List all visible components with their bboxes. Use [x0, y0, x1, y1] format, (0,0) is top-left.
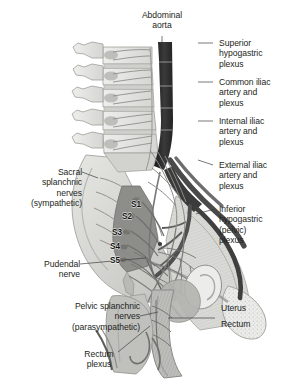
leader-external-iliac [198, 160, 213, 165]
label-rectum: Rectum [221, 319, 287, 329]
label-pelvic-splanchnic-nerves: Pelvic splanchnic nerves (parasympatheti… [2, 301, 140, 332]
label-inferior-hypogastric-plexus: Inferior hypogastric (pelvic) plexus [219, 204, 289, 246]
label-sacral-splanchnic-nerves: Sacral splanchnic nerves (sympathetic) [2, 167, 82, 209]
label-uterus: Uterus [221, 303, 287, 313]
label-external-iliac-artery-and-plexus: External iliac artery and plexus [219, 160, 289, 191]
label-vertebra-s3: S3 [112, 228, 122, 237]
label-common-iliac-artery-and-plexus: Common iliac artery and plexus [219, 77, 289, 108]
label-vertebra-s1: S1 [131, 200, 141, 209]
label-superior-hypogastric-plexus: Superior hypogastric plexus [219, 38, 289, 69]
sacral-plexus-node [158, 242, 162, 246]
label-vertebra-s2: S2 [122, 212, 132, 221]
label-vertebra-s5: S5 [110, 256, 120, 265]
label-abdominal-aorta: Abdominal aorta [112, 10, 212, 31]
label-rectum-plexus: Rectum plexus [62, 349, 136, 370]
label-internal-iliac-artery-and-plexus: Internal iliac artery and plexus [219, 116, 289, 147]
vertebral-processes [72, 42, 103, 148]
anatomy-figure: Abdominal aorta Superior hypogastric ple… [0, 0, 289, 389]
label-vertebra-s4: S4 [110, 242, 120, 251]
label-pudendal-nerve: Pudendal nerve [10, 259, 80, 280]
